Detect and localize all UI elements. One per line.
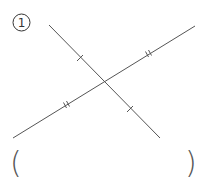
answer-open-paren: (: [10, 146, 22, 180]
answer-close-paren: ): [185, 146, 197, 180]
answer-input[interactable]: [35, 150, 179, 180]
line-b: [13, 26, 195, 138]
single-tick-marks: [77, 55, 133, 112]
worksheet-problem: 1 ( ): [0, 0, 203, 180]
